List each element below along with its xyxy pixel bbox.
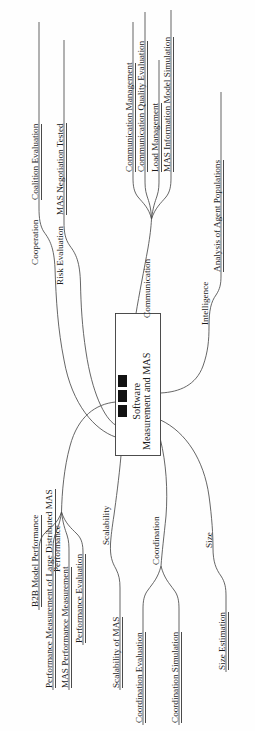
branch-label-communication[interactable]: Communication <box>143 259 152 318</box>
leaf-communication-management[interactable]: Communication Management <box>125 63 136 172</box>
branch-label-cooperation[interactable]: Cooperation <box>31 220 40 265</box>
wire-cooperation-trunk <box>55 268 116 437</box>
wire-scalability-trunk <box>111 456 122 545</box>
leaf-analysis-of-agent-populations[interactable]: Analysis of Agent Populations <box>213 160 224 272</box>
center-node-line2: Measurement and MAS <box>142 353 152 450</box>
leaf-performance-measurement-large-distributed-mas[interactable]: Performance Measurement of Large Distrib… <box>45 489 56 688</box>
branch-label-coordination[interactable]: Coordination <box>152 517 161 566</box>
leaf-size-estimation[interactable]: Size Estimation <box>218 612 229 670</box>
leaf-coordination-evaluation[interactable]: Coordination Evaluation <box>135 632 146 723</box>
center-bullet-2 <box>118 390 127 402</box>
wire-size-trunk <box>161 420 214 548</box>
leaf-b2b-model-performance[interactable]: B2B Model Performance <box>31 515 42 607</box>
branch-label-intelligence[interactable]: Intelligence <box>201 282 210 325</box>
branch-label-size[interactable]: Size <box>205 532 214 548</box>
leaf-mas-information-model-simulation[interactable]: MAS Information Model Simulation <box>163 37 174 172</box>
wire-coordination-trunk <box>161 440 167 566</box>
leaf-mas-performance-measurement[interactable]: MAS Performance Measurement <box>61 567 72 688</box>
leaf-coordination-simulation[interactable]: Coordination Simulation <box>171 632 182 723</box>
leaf-coalition-evaluation[interactable]: Coalition Evaluation <box>31 124 42 200</box>
leaf-performance-evaluation[interactable]: Performance Evaluation <box>75 554 86 643</box>
center-bullet-1 <box>118 375 127 387</box>
center-bullet-3 <box>118 405 127 417</box>
leaf-communication-quality-evaluation[interactable]: Communication Quality Evaluation <box>137 41 148 172</box>
leaf-mas-negotiation-tested[interactable]: MAS Negotiation Tested <box>56 123 67 215</box>
mind-map-canvas: Software Measurement and MAS Cooperation… <box>0 0 255 731</box>
center-node-label: Software Measurement and MAS <box>132 353 152 450</box>
branch-label-risk-evaluation[interactable]: Risk Evaluation <box>56 226 65 285</box>
leaf-scalability-of-mas[interactable]: Scalability of MAS <box>112 617 123 688</box>
wire-performance-trunk <box>62 402 116 512</box>
branch-label-scalability[interactable]: Scalability <box>102 506 111 545</box>
leaf-load-management[interactable]: Load Management <box>151 103 162 172</box>
wire-intelligence-trunk <box>161 327 210 393</box>
wire-risk-trunk <box>81 284 116 425</box>
